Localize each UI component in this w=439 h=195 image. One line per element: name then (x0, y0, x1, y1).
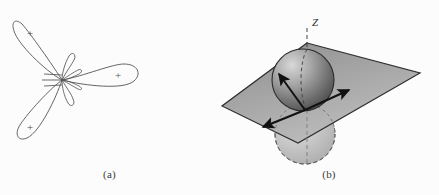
orbital-lobe-diagram: + + + (0, 0, 219, 165)
plus-sign-upper-left: + (27, 27, 33, 39)
caption-b: (b) (219, 168, 439, 180)
upper-left-lobe (13, 21, 62, 80)
small-lobe-lower (62, 80, 74, 106)
panel-a: + + + (a) (0, 0, 219, 195)
figure-root: + + + (a) (0, 0, 439, 195)
caption-a: (a) (0, 168, 219, 180)
plane-sphere-diagram: Z (219, 0, 439, 165)
lower-left-lobe (17, 80, 62, 139)
plus-sign-right: + (115, 69, 121, 81)
panel-b: Z (b) (219, 0, 439, 195)
plus-sign-lower-left: + (27, 121, 33, 133)
z-axis-label: Z (312, 16, 319, 28)
